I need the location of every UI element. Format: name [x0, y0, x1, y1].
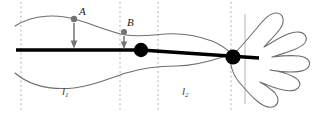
arm-hand-diagram	[0, 0, 320, 115]
marker-dot-a	[71, 16, 77, 22]
arrow-a-head	[71, 41, 78, 49]
arrow-b-head	[121, 42, 127, 50]
label-segment-l1-sub: 1	[65, 91, 69, 99]
arrow-b	[121, 36, 127, 49]
label-point-a: A	[79, 6, 86, 17]
label-segment-l2: l2	[182, 86, 189, 97]
arm-outline-lower	[15, 55, 233, 88]
arrow-a	[71, 23, 78, 49]
label-point-b: B	[127, 17, 134, 28]
arm-outline-group	[15, 16, 233, 88]
label-segment-l1: l1	[62, 86, 69, 97]
hand-outline	[231, 13, 310, 107]
label-segment-l2-sub: 2	[185, 91, 189, 99]
joint-dot-wrist	[225, 49, 240, 64]
joint-dot-elbow	[134, 43, 148, 57]
marker-dot-b	[121, 29, 127, 35]
figure-container: A B l1 l2	[0, 0, 320, 115]
